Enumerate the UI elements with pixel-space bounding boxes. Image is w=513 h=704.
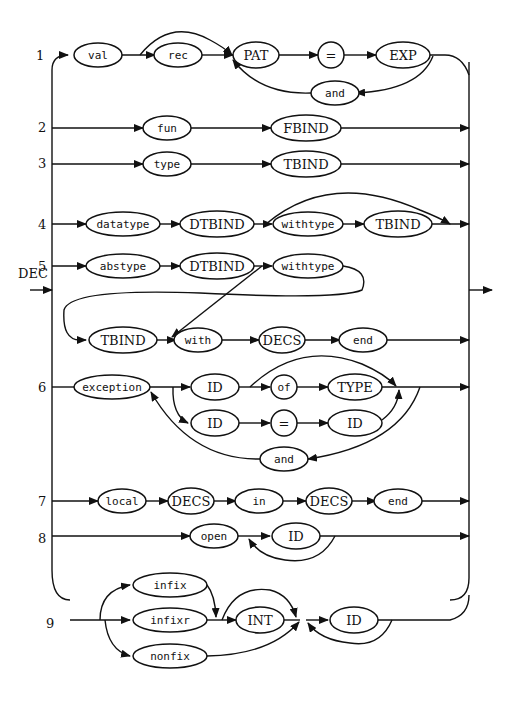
node-end: end	[388, 495, 408, 508]
node-dtbind: DTBIND	[189, 259, 245, 274]
node-int: INT	[247, 613, 273, 628]
node-exp: EXP	[389, 48, 417, 63]
node-exception: exception	[82, 381, 142, 394]
node-eq: =	[279, 416, 290, 431]
node-tbind-2: TBIND	[375, 217, 420, 232]
node-type: TYPE	[337, 380, 373, 395]
node-dtbind: DTBIND	[189, 217, 245, 232]
node-and: and	[274, 453, 294, 466]
node-in: in	[252, 495, 265, 508]
node-decs-1: DECS	[172, 494, 211, 509]
rule-number-6: 6	[38, 380, 46, 395]
node-open: open	[201, 530, 228, 543]
node-abstype: abstype	[100, 260, 146, 273]
left-rail-lower	[52, 290, 70, 600]
rule-number-4: 4	[38, 217, 46, 232]
node-fbind: FBIND	[283, 121, 329, 136]
node-nonfix: nonfix	[150, 650, 190, 663]
node-withtype: withtype	[282, 218, 335, 231]
node-infixr: infixr	[150, 614, 190, 627]
node-eq: =	[326, 48, 337, 63]
node-local: local	[105, 495, 138, 508]
rule-1: val rec PAT = EXP and	[74, 32, 469, 105]
node-and: and	[325, 87, 345, 100]
node-val: val	[88, 49, 108, 62]
rule-number-5: 5	[38, 259, 46, 274]
rule-7: local DECS in DECS end	[52, 488, 469, 514]
node-pat: PAT	[244, 48, 269, 63]
node-type: type	[154, 158, 181, 171]
node-id: ID	[346, 613, 362, 628]
node-id: ID	[288, 529, 304, 544]
rule-number-1: 1	[36, 48, 44, 63]
node-tbind: TBIND	[100, 333, 145, 348]
node-of: of	[277, 381, 290, 394]
node-id-1: ID	[207, 380, 223, 395]
rule-6: exception ID of TYPE ID = ID and	[52, 356, 469, 471]
rule-number-7: 7	[38, 494, 46, 509]
node-with: with	[185, 334, 212, 347]
rule-2: fun FBIND	[52, 115, 469, 141]
node-withtype: withtype	[282, 260, 335, 273]
node-decs-2: DECS	[310, 494, 349, 509]
node-datatype: datatype	[97, 218, 150, 231]
rule-3: type TBIND	[52, 151, 469, 177]
node-decs: DECS	[263, 333, 302, 348]
rule-number-3: 3	[38, 156, 46, 171]
node-infix: infix	[153, 579, 186, 592]
node-id-3: ID	[347, 416, 363, 431]
node-fun: fun	[157, 122, 177, 135]
node-rec: rec	[168, 49, 188, 62]
rule-number-2: 2	[38, 120, 46, 135]
rule-8: open ID	[52, 523, 469, 561]
node-tbind: TBIND	[283, 157, 328, 172]
right-rail	[450, 62, 469, 600]
node-end: end	[353, 334, 373, 347]
node-id-2: ID	[207, 416, 223, 431]
rule-number-9: 9	[46, 616, 54, 631]
rule-4: datatype DTBIND withtype TBIND	[52, 193, 469, 237]
rule-5: abstype DTBIND withtype TBIND with DECS …	[52, 253, 469, 353]
rule-number-8: 8	[38, 531, 46, 546]
rule-9: infix infixr nonfix INT ID	[70, 573, 469, 668]
syntax-diagram: DEC 1 val rec PAT = EXP and 2 fun FBIND	[0, 0, 513, 704]
